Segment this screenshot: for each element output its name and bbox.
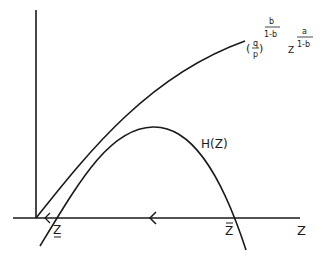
svg-text:p: p [253,50,258,59]
svg-text:1-b: 1-b [297,40,310,49]
svg-text:(: ( [246,42,250,55]
x-axis-label: Z [297,223,306,238]
svg-text:a: a [302,27,307,36]
h-curve-label: H(Z) [201,137,228,151]
svg-text:1-b: 1-b [264,30,277,39]
lower-root-label: Z [53,223,61,237]
diagram-canvas: Z Z Z H(Z) ( q p ) b 1-b Z a 1-b [0,0,323,261]
svg-text:q: q [253,39,258,48]
upper-root-label: Z [225,224,233,238]
svg-text:b: b [269,17,274,26]
svg-text:): ) [259,42,263,55]
svg-text:Z: Z [288,45,294,55]
upper-curve-formula: ( q p ) b 1-b Z a 1-b [246,17,313,59]
